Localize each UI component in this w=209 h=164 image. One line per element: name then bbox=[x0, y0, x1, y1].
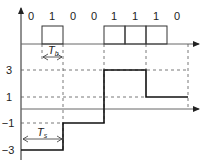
svg-text:Tb: Tb bbox=[48, 44, 59, 57]
svg-text:0: 0 bbox=[91, 10, 97, 22]
svg-text:1: 1 bbox=[111, 10, 117, 22]
svg-text:1: 1 bbox=[153, 10, 159, 22]
svg-text:0: 0 bbox=[28, 10, 34, 22]
bit-period-annotation: Tb bbox=[43, 44, 62, 57]
binary-pulses bbox=[42, 26, 167, 44]
svg-text:1: 1 bbox=[49, 10, 55, 22]
svg-text:Ts: Ts bbox=[37, 126, 48, 139]
svg-text:−1: −1 bbox=[2, 117, 15, 129]
svg-text:0: 0 bbox=[70, 10, 76, 22]
pam-diagram: 0 1 0 0 1 1 1 0 3 1 −1 −3 Tb Ts bbox=[0, 0, 209, 164]
svg-text:−3: −3 bbox=[2, 144, 15, 156]
svg-text:1: 1 bbox=[6, 91, 12, 103]
svg-text:1: 1 bbox=[132, 10, 138, 22]
svg-text:0: 0 bbox=[174, 10, 180, 22]
symbol-period-annotation: Ts bbox=[23, 126, 62, 139]
svg-text:3: 3 bbox=[6, 64, 12, 76]
bit-labels: 0 1 0 0 1 1 1 0 bbox=[28, 10, 180, 22]
level-labels: 3 1 −1 −3 bbox=[2, 64, 15, 156]
